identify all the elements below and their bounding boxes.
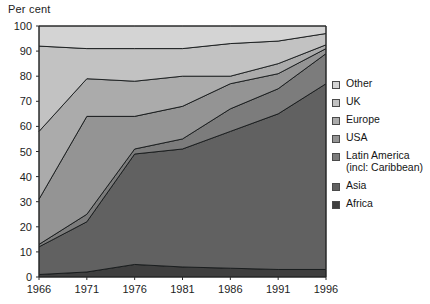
legend-item: UK <box>332 96 428 108</box>
y-tick-label: 50 <box>20 146 32 158</box>
legend-label: Other <box>346 78 372 90</box>
legend-item: Europe <box>332 114 428 126</box>
y-tick-label: 40 <box>20 171 32 183</box>
y-tick-label: 80 <box>20 70 32 82</box>
x-tick-label: 1976 <box>122 283 146 295</box>
y-tick-label: 70 <box>20 95 32 107</box>
chart-legend: OtherUKEuropeUSALatin America(incl: Cari… <box>332 78 428 216</box>
legend-swatch-icon <box>332 99 340 107</box>
x-tick-labels: 1966197119761981198619911996 <box>27 283 338 295</box>
y-tick-label: 10 <box>20 246 32 258</box>
legend-label: Europe <box>346 114 380 126</box>
x-tick-label: 1996 <box>314 283 338 295</box>
legend-item: Other <box>332 78 428 90</box>
chart-container: Per cent 0102030405060708090100 19661971… <box>0 0 430 304</box>
y-tick-label: 100 <box>14 20 32 32</box>
x-tick-label: 1971 <box>75 283 99 295</box>
y-tick-labels: 0102030405060708090100 <box>14 20 32 283</box>
legend-label: Africa <box>346 198 373 210</box>
y-tick-label: 20 <box>20 221 32 233</box>
chart-bands <box>39 26 326 277</box>
y-tick-label: 60 <box>20 120 32 132</box>
x-tick-label: 1986 <box>218 283 242 295</box>
legend-label: USA <box>346 132 368 144</box>
legend-swatch-icon <box>332 153 340 161</box>
x-tick-label: 1981 <box>170 283 194 295</box>
legend-label: Asia <box>346 180 366 192</box>
y-tick-label: 90 <box>20 45 32 57</box>
legend-swatch-icon <box>332 201 340 209</box>
legend-item: Asia <box>332 180 428 192</box>
x-tick-label: 1991 <box>266 283 290 295</box>
legend-label: UK <box>346 96 361 108</box>
legend-item: USA <box>332 132 428 144</box>
legend-item: Latin America(incl: Caribbean) <box>332 150 428 173</box>
x-tick-label: 1966 <box>27 283 51 295</box>
legend-item: Africa <box>332 198 428 210</box>
legend-label: Latin America(incl: Caribbean) <box>346 150 423 173</box>
y-tick-label: 30 <box>20 196 32 208</box>
legend-swatch-icon <box>332 117 340 125</box>
legend-swatch-icon <box>332 183 340 191</box>
legend-swatch-icon <box>332 135 340 143</box>
y-tick-label: 0 <box>26 271 32 283</box>
legend-swatch-icon <box>332 81 340 89</box>
legend-label-secondary: (incl: Caribbean) <box>346 162 423 174</box>
